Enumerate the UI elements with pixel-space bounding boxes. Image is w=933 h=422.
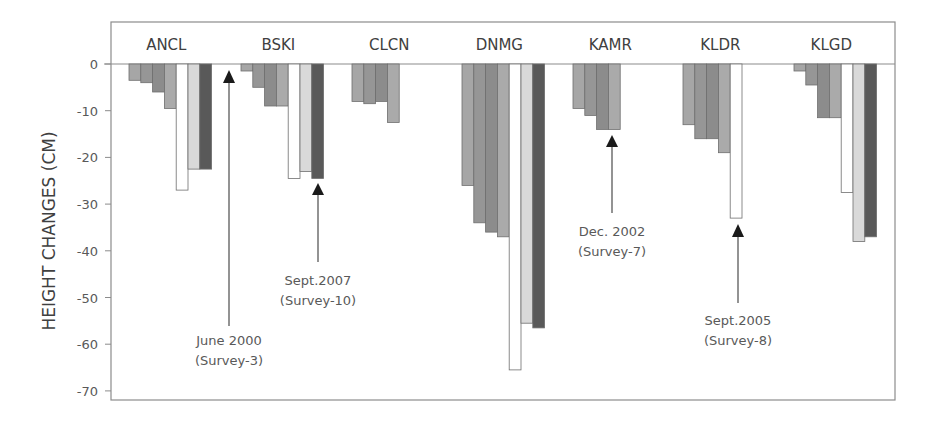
- bar-kldr-5: [730, 64, 742, 218]
- y-axis-title: HEIGHT CHANGES (CM): [39, 131, 59, 330]
- annotation-text: Sept.2007: [285, 273, 352, 288]
- bar-klgd-2: [806, 64, 818, 85]
- bar-klgd-6: [853, 64, 865, 242]
- bar-bski-3: [265, 64, 277, 106]
- station-label-klgd: KLGD: [811, 36, 852, 54]
- bar-bski-2: [253, 64, 265, 87]
- bar-clcn-2: [364, 64, 376, 104]
- annotation-text: (Survey-10): [280, 293, 356, 308]
- bar-bski-4: [276, 64, 288, 106]
- bar-dnmg-3: [486, 64, 498, 232]
- annotation-text: (Survey-8): [704, 333, 772, 348]
- station-label-dnmg: DNMG: [476, 36, 523, 54]
- station-label-kldr: KLDR: [700, 36, 740, 54]
- station-label-bski: BSKI: [261, 36, 295, 54]
- annotation-text: (Survey-7): [578, 244, 646, 259]
- y-tick-label: -20: [77, 150, 98, 165]
- bar-bski-7: [312, 64, 324, 178]
- annotation-text: June 2000: [195, 333, 262, 348]
- y-tick-label: -60: [77, 337, 98, 352]
- bar-klgd-3: [818, 64, 830, 118]
- y-tick-label: 0: [90, 57, 98, 72]
- bar-kldr-3: [707, 64, 719, 139]
- bar-bski-1: [241, 64, 253, 71]
- bar-kamr-2: [585, 64, 597, 115]
- station-label-clcn: CLCN: [369, 36, 410, 54]
- bar-ancl-2: [141, 64, 153, 83]
- annotation-text: Dec. 2002: [579, 224, 646, 239]
- bar-dnmg-5: [509, 64, 521, 370]
- bar-ancl-3: [153, 64, 165, 92]
- bar-dnmg-4: [497, 64, 509, 237]
- bar-ancl-7: [200, 64, 212, 169]
- bar-klgd-5: [841, 64, 853, 192]
- bar-clcn-1: [352, 64, 364, 101]
- bar-kamr-3: [597, 64, 609, 129]
- y-tick-label: -10: [77, 104, 98, 119]
- bar-dnmg-7: [533, 64, 545, 328]
- bar-kldr-2: [695, 64, 707, 139]
- y-axis-ticks: 0-10-20-30-40-50-60-70: [77, 57, 111, 399]
- y-tick-label: -40: [77, 244, 98, 259]
- bar-klgd-4: [829, 64, 841, 118]
- station-label-kamr: KAMR: [589, 36, 632, 54]
- y-tick-label: -30: [77, 197, 98, 212]
- bar-clcn-3: [376, 64, 388, 101]
- annotation-text: (Survey-3): [195, 353, 263, 368]
- bar-dnmg-6: [521, 64, 533, 323]
- bar-ancl-6: [188, 64, 200, 169]
- bar-bski-6: [300, 64, 312, 171]
- bar-ancl-1: [129, 64, 141, 80]
- bar-bski-5: [288, 64, 300, 178]
- height-changes-chart: 0-10-20-30-40-50-60-70 HEIGHT CHANGES (C…: [0, 0, 933, 422]
- bar-klgd-1: [794, 64, 806, 71]
- bar-kamr-1: [573, 64, 585, 108]
- bar-ancl-4: [164, 64, 176, 108]
- y-tick-label: -50: [77, 291, 98, 306]
- y-tick-label: -70: [77, 384, 98, 399]
- bar-ancl-5: [176, 64, 188, 190]
- bar-kldr-1: [683, 64, 695, 125]
- bar-dnmg-1: [462, 64, 474, 185]
- annotation-text: Sept.2005: [705, 313, 772, 328]
- bar-clcn-4: [387, 64, 399, 122]
- bar-kldr-4: [718, 64, 730, 153]
- bar-kamr-4: [608, 64, 620, 129]
- bar-dnmg-2: [474, 64, 486, 223]
- station-label-ancl: ANCL: [146, 36, 187, 54]
- bar-klgd-7: [865, 64, 877, 237]
